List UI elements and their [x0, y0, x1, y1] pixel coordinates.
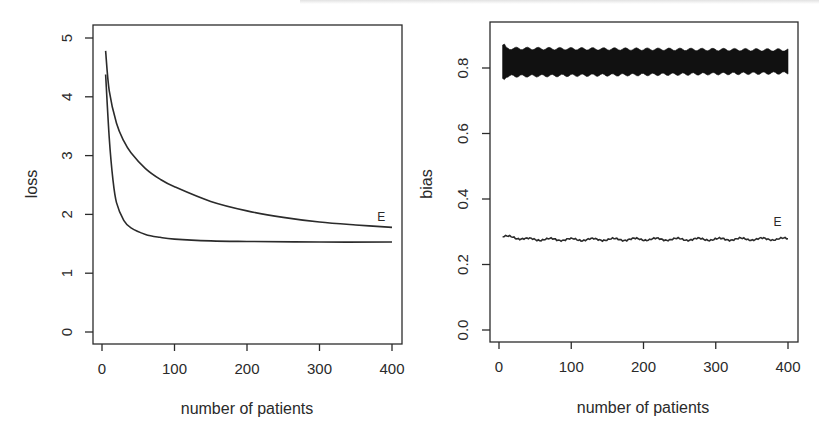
bias-y-axis: 0.00.20.40.60.8: [454, 58, 490, 341]
loss-plot-frame: [93, 25, 402, 344]
x-tick-label: 0: [495, 358, 503, 375]
oscillating-band: [503, 44, 788, 80]
y-tick-label: 3: [58, 151, 75, 159]
y-tick-label: 0.4: [454, 189, 471, 210]
loss-y-axis-title: loss: [23, 170, 40, 198]
y-tick-label: 0.6: [454, 123, 471, 144]
bias-series-label-e: E: [773, 215, 781, 229]
series-line: [503, 235, 788, 241]
y-tick-label: 0.8: [454, 58, 471, 79]
x-tick-label: 300: [703, 358, 728, 375]
y-tick-label: 4: [58, 93, 75, 101]
y-tick-label: 0.0: [454, 320, 471, 341]
bias-series: [503, 44, 788, 241]
loss-y-axis: 012345: [58, 34, 93, 336]
x-tick-label: 400: [379, 360, 404, 377]
loss-series-label-e: E: [377, 210, 385, 224]
y-tick-label: 1: [58, 269, 75, 277]
y-tick-label: 2: [58, 210, 75, 218]
loss-x-axis: 0100200300400: [98, 344, 405, 377]
y-tick-label: 0.2: [454, 254, 471, 275]
x-tick-label: 200: [234, 360, 259, 377]
series-line: [106, 51, 392, 227]
y-tick-label: 0: [58, 328, 75, 336]
x-tick-label: 300: [307, 360, 332, 377]
x-tick-label: 200: [631, 358, 656, 375]
x-tick-label: 0: [98, 360, 106, 377]
bias-x-axis: 0100200300400: [495, 342, 801, 375]
loss-chart: 012345 0100200300400 number of patients …: [23, 25, 405, 417]
bias-chart: 0.00.20.40.60.8 0100200300400 number of …: [418, 22, 801, 416]
x-tick-label: 400: [775, 358, 800, 375]
y-tick-label: 5: [58, 34, 75, 42]
x-tick-label: 100: [559, 358, 584, 375]
figure-two-panels: 012345 0100200300400 number of patients …: [0, 0, 819, 439]
bias-x-axis-title: number of patients: [577, 399, 710, 416]
x-tick-label: 100: [162, 360, 187, 377]
loss-series: [106, 51, 392, 242]
series-line: [106, 74, 392, 242]
bias-y-axis-title: bias: [418, 169, 435, 198]
loss-x-axis-title: number of patients: [181, 400, 314, 417]
